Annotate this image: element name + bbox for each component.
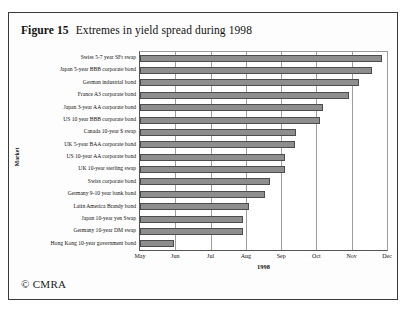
y-axis-category-label: Japan 10-year yen Swap: [81, 212, 136, 224]
y-axis-category-label: UK 10-year sterling swap: [78, 162, 136, 174]
chart-row: Germany 10-year DM swap: [140, 225, 387, 237]
x-axis-tick-label: Aug: [241, 253, 251, 259]
chart-row: UK 5-year BAA corporate bond: [140, 139, 387, 151]
copyright-notice: © CMRA: [21, 278, 66, 290]
y-axis-category-label: Japan 3-year AA corporate bond: [64, 101, 136, 113]
bar: [140, 104, 323, 111]
chart-row: Japan 10-year yen Swap: [140, 213, 387, 225]
y-axis-category-label: Latin America Brandy bond: [73, 200, 136, 212]
bar: [140, 141, 295, 148]
y-axis-category-label: France A3 corporate bond: [78, 88, 136, 100]
figure-card: Figure 15Extremes in yield spread during…: [8, 12, 398, 300]
chart-row: Germany 9-10 year bank bond: [140, 188, 387, 200]
x-axis-tick-label: Dec: [382, 253, 392, 259]
plot-area: MayJunJulAugSepOctNovDecSwiss 5-7 year S…: [139, 51, 388, 251]
chart-row: German industrial bond: [140, 77, 387, 89]
x-axis-tick-label: Jul: [207, 253, 214, 259]
bar: [140, 92, 349, 99]
bar: [140, 178, 270, 185]
bar: [140, 79, 359, 86]
gridline: [387, 52, 388, 250]
chart-row: Hong Kong 10-year government bond: [140, 238, 387, 250]
chart-row: Latin America Brandy bond: [140, 201, 387, 213]
bar: [140, 166, 285, 173]
bar: [140, 191, 265, 198]
chart-row: France A3 corporate bond: [140, 89, 387, 101]
chart-row: US 10 year BBB corporate bond: [140, 114, 387, 126]
x-axis-title: 1998: [257, 263, 270, 270]
chart-row: Canada 10-year $ swap: [140, 126, 387, 138]
y-axis-category-label: Hong Kong 10-year government bond: [51, 237, 136, 249]
chart-area: Market MayJunJulAugSepOctNovDecSwiss 5-7…: [9, 13, 399, 301]
y-axis-category-label: Japan 5-year BBB corporate bond: [60, 63, 136, 75]
chart-row: Japan 5-year BBB corporate bond: [140, 64, 387, 76]
chart-row: Swiss corporate bond: [140, 176, 387, 188]
x-axis-tick-label: Oct: [312, 253, 321, 259]
y-axis-category-label: Swiss corporate bond: [88, 175, 136, 187]
y-axis-category-label: Swiss 5-7 year SFr swap: [81, 51, 136, 63]
bar: [140, 67, 372, 74]
bar: [140, 129, 296, 136]
bar: [140, 55, 382, 62]
x-axis-tick-label: Sep: [277, 253, 286, 259]
y-axis-category-label: German industrial bond: [83, 76, 136, 88]
bar: [140, 117, 320, 124]
bar: [140, 154, 285, 161]
bar: [140, 203, 249, 210]
chart-row: Japan 3-year AA corporate bond: [140, 102, 387, 114]
y-axis-title: Market: [14, 148, 20, 167]
x-axis-tick-label: May: [135, 253, 146, 259]
x-axis-tick-label: Jun: [171, 253, 179, 259]
y-axis-category-label: US 10-year AA corporate bond: [66, 150, 136, 162]
x-axis-tick-label: Nov: [347, 253, 357, 259]
y-axis-category-label: UK 5-year BAA corporate bond: [64, 138, 136, 150]
bar: [140, 216, 243, 223]
y-axis-category-label: Germany 9-10 year bank bond: [68, 187, 136, 199]
y-axis-category-label: Germany 10-year DM swap: [73, 224, 136, 236]
bar: [140, 240, 174, 247]
y-axis-category-label: US 10 year BBB corporate bond: [63, 113, 136, 125]
chart-row: UK 10-year sterling swap: [140, 163, 387, 175]
bar: [140, 228, 243, 235]
chart-row: US 10-year AA corporate bond: [140, 151, 387, 163]
y-axis-category-label: Canada 10-year $ swap: [84, 125, 136, 137]
chart-row: Swiss 5-7 year SFr swap: [140, 52, 387, 64]
